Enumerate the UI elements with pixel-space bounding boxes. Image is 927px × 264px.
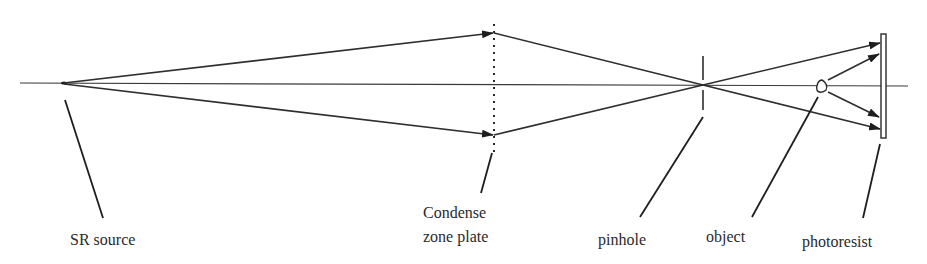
- ray-lower-focused: [494, 85, 703, 135]
- leader-sr-source: [65, 100, 103, 218]
- ray-scatter-lower: [828, 92, 879, 117]
- leader-zone-plate: [481, 153, 492, 193]
- leader-pinhole: [640, 117, 703, 217]
- object-icon: [817, 80, 827, 92]
- photoresist-plate: [881, 34, 886, 138]
- label-pinhole: pinhole: [598, 231, 646, 249]
- leader-object: [752, 97, 818, 217]
- label-object: object: [706, 228, 746, 246]
- ray-upper-focused: [494, 33, 703, 85]
- leader-photoresist: [863, 144, 880, 218]
- optical-axis: [20, 83, 908, 86]
- ray-upper-incident: [64, 33, 493, 83]
- label-zone-plate-line1: Condense: [423, 204, 486, 221]
- ray-scatter-upper: [828, 54, 879, 80]
- ray-diverging-lower: [703, 85, 880, 129]
- label-zone-plate-line2: zone plate: [423, 228, 488, 246]
- ray-lower-incident: [64, 84, 493, 135]
- optical-layout-diagram: SR source Condense zone plate pinhole ob…: [0, 0, 927, 264]
- label-photoresist: photoresist: [802, 233, 873, 251]
- label-sr-source: SR source: [70, 231, 135, 248]
- ray-diverging-upper: [703, 43, 880, 85]
